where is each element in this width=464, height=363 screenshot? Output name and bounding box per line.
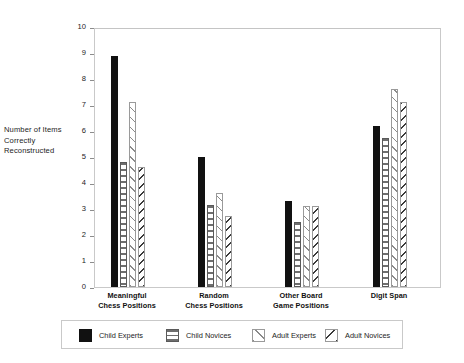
x-axis-category-label-line: Random	[164, 291, 264, 301]
bar	[207, 205, 214, 287]
y-axis-tick-label: 6	[82, 126, 86, 135]
y-axis-tick-mark	[90, 288, 94, 289]
y-axis-tick: 10	[0, 28, 94, 29]
y-axis-tick: 8	[0, 80, 94, 81]
bar	[198, 157, 205, 287]
y-axis-tick-label: 5	[82, 152, 86, 161]
legend-item: Adult Experts	[252, 328, 316, 343]
y-axis-tick: 2	[0, 236, 94, 237]
legend-label: Child Novices	[186, 331, 231, 340]
x-axis-category-label: Other BoardGame Positions	[251, 291, 351, 310]
x-axis-category-label-line: Other Board	[251, 291, 351, 301]
y-axis-tick: 1	[0, 262, 94, 263]
y-axis-tick: 9	[0, 54, 94, 55]
y-axis-title: Number of ItemsCorrectlyReconstructed	[4, 125, 88, 157]
bar	[111, 56, 118, 287]
bar	[120, 162, 127, 287]
legend-label: Child Experts	[99, 331, 143, 340]
legend-item: Adult Novices	[325, 328, 390, 343]
x-axis-category-label-line: Digit Span	[339, 291, 439, 301]
y-axis-title-line: Number of Items	[4, 125, 88, 136]
bar	[138, 167, 145, 287]
x-axis-category-label-line: Chess Positions	[77, 301, 177, 311]
bar	[373, 126, 380, 287]
legend-swatch	[325, 329, 338, 342]
legend-label: Adult Novices	[345, 331, 390, 340]
y-axis-tick-label: 7	[82, 100, 86, 109]
y-axis-tick-mark	[90, 184, 94, 185]
y-axis-tick: 5	[0, 158, 94, 159]
legend-swatch	[166, 329, 179, 342]
legend-label: Adult Experts	[272, 331, 316, 340]
y-axis-tick: 7	[0, 106, 94, 107]
y-axis-tick-mark	[90, 28, 94, 29]
y-axis-tick: 0	[0, 288, 94, 289]
x-axis-category-label-line: Game Positions	[251, 301, 351, 311]
y-axis-tick: 4	[0, 184, 94, 185]
y-axis-tick-label: 4	[82, 178, 86, 187]
legend-swatch	[252, 329, 265, 342]
chart-legend: Child ExpertsChild NovicesAdult ExpertsA…	[61, 320, 403, 349]
x-axis-category-label-line: Meaningful	[77, 291, 177, 301]
bar	[216, 193, 223, 287]
y-axis-tick-mark	[90, 236, 94, 237]
x-axis-category-label: Digit Span	[339, 291, 439, 301]
y-axis-tick-label: 10	[78, 22, 86, 31]
bar-group	[373, 29, 407, 287]
y-axis-tick-mark	[90, 54, 94, 55]
legend-swatch	[79, 329, 92, 342]
y-axis-tick-mark	[90, 262, 94, 263]
y-axis-tick-mark	[90, 158, 94, 159]
bar-group	[285, 29, 319, 287]
y-axis-tick: 6	[0, 132, 94, 133]
bar	[225, 216, 232, 288]
bar	[312, 206, 319, 287]
y-axis-title-line: Correctly	[4, 136, 88, 147]
bar	[400, 102, 407, 287]
y-axis-tick-label: 8	[82, 74, 86, 83]
y-axis-tick-mark	[90, 106, 94, 107]
y-axis-tick-mark	[90, 210, 94, 211]
bar-group	[111, 29, 145, 287]
y-axis-title-line: Reconstructed	[4, 146, 88, 157]
y-axis-tick-label: 3	[82, 204, 86, 213]
x-axis-category-label: MeaningfulChess Positions	[77, 291, 177, 310]
y-axis-tick-mark	[90, 132, 94, 133]
legend-item: Child Novices	[166, 328, 231, 343]
bar	[294, 222, 301, 287]
bar-group	[198, 29, 232, 287]
bar-chart: Number of ItemsCorrectlyReconstructed Ch…	[0, 0, 464, 363]
bar	[285, 201, 292, 287]
y-axis-tick: 3	[0, 210, 94, 211]
y-axis-tick-label: 1	[82, 256, 86, 265]
bar	[129, 102, 136, 287]
x-axis-category-label-line: Chess Positions	[164, 301, 264, 311]
y-axis-tick-mark	[90, 80, 94, 81]
legend-item: Child Experts	[79, 328, 143, 343]
x-axis-category-label: RandomChess Positions	[164, 291, 264, 310]
bar	[303, 206, 310, 287]
y-axis-tick-label: 2	[82, 230, 86, 239]
plot-inner	[95, 29, 440, 287]
y-axis-tick-label: 9	[82, 48, 86, 57]
y-axis-tick-label: 0	[82, 282, 86, 291]
bar	[391, 89, 398, 287]
bar	[382, 138, 389, 288]
plot-area	[94, 28, 441, 288]
